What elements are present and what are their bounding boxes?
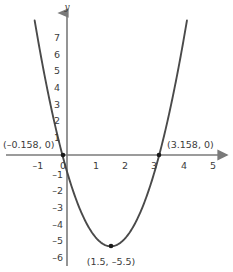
y-tick-label-7: 7 [54, 32, 60, 43]
x-tick-label-1: 1 [93, 160, 99, 171]
y-tick-label-1: 1 [54, 132, 60, 143]
parabola-plot: y –1 0 1 2 3 4 5 7 6 5 4 3 2 1 –1 –2 –3 … [0, 0, 233, 272]
x-tick-label-2: 2 [122, 160, 128, 171]
y-tick-label-neg2: –2 [52, 185, 63, 196]
right-root-marker [157, 153, 162, 158]
y-tick-label-3: 3 [54, 99, 60, 110]
x-tick-label-3: 3 [151, 160, 157, 171]
right-root-label: (3.158, 0) [167, 139, 214, 150]
y-tick-label-neg4: –4 [52, 219, 63, 230]
y-tick-label-neg5: –5 [52, 235, 63, 246]
vertex-label: (1.5, –5.5) [87, 256, 135, 267]
y-tick-label-4: 4 [54, 82, 60, 93]
left-root-label: (–0.158, 0) [3, 139, 54, 150]
graph-figure: y –1 0 1 2 3 4 5 7 6 5 4 3 2 1 –1 –2 –3 … [0, 0, 233, 272]
x-tick-label-neg1: –1 [33, 160, 44, 171]
left-root-marker [61, 153, 66, 158]
y-tick-label-neg3: –3 [52, 202, 63, 213]
y-axis-name: y [63, 2, 70, 12]
x-tick-label-4: 4 [181, 160, 187, 171]
y-tick-label-2: 2 [54, 115, 60, 126]
vertex-marker [109, 244, 114, 249]
x-tick-label-5: 5 [210, 160, 216, 171]
y-tick-label-5: 5 [54, 65, 60, 76]
y-tick-label-6: 6 [54, 49, 60, 60]
y-tick-label-neg6: –6 [52, 252, 63, 263]
y-tick-label-neg1: –1 [52, 169, 63, 180]
